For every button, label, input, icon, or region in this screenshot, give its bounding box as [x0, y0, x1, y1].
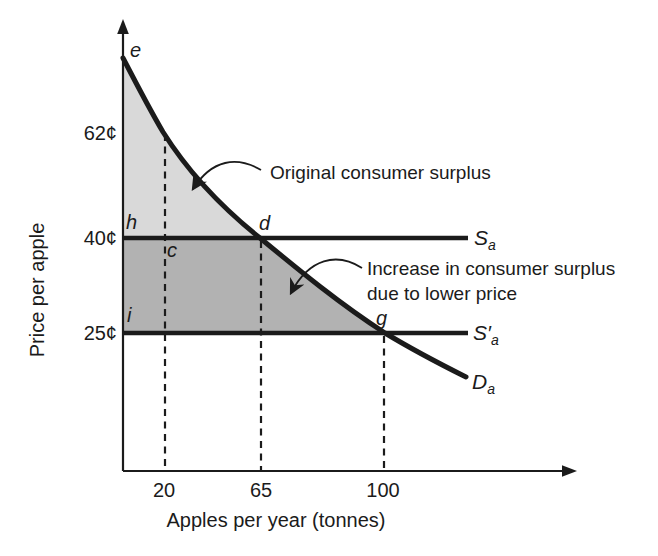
- point-label-d: d: [259, 212, 271, 234]
- point-label-h: h: [126, 211, 137, 233]
- y-tick-25c: 25¢: [84, 322, 117, 344]
- y-tick-62c: 62¢: [84, 122, 117, 144]
- x-tick-20: 20: [153, 479, 175, 501]
- consumer-surplus-figure: 62¢ 40¢ 25¢ 20 65 100 Apples per year (t…: [0, 0, 658, 556]
- point-label-g: g: [376, 307, 387, 329]
- x-axis-title: Apples per year (tonnes): [166, 509, 385, 531]
- point-label-c: c: [167, 239, 177, 261]
- y-axis-title: Price per apple: [26, 223, 48, 358]
- y-tick-40c: 40¢: [84, 227, 117, 249]
- x-tick-65: 65: [250, 479, 272, 501]
- x-tick-100: 100: [366, 479, 399, 501]
- point-label-i: i: [127, 304, 132, 326]
- annotation-original-surplus: Original consumer surplus: [270, 162, 491, 183]
- annotation-increase-surplus-line2: due to lower price: [367, 283, 517, 304]
- chart-canvas: 62¢ 40¢ 25¢ 20 65 100 Apples per year (t…: [0, 0, 658, 556]
- annotation-increase-surplus-line1: Increase in consumer surplus: [367, 258, 615, 279]
- point-label-e: e: [130, 39, 141, 61]
